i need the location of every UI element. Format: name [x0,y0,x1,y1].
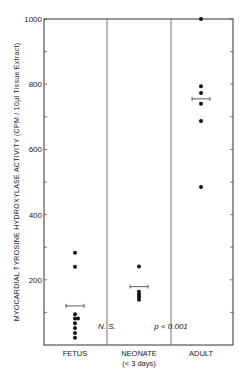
y-tick-label: 1000 [24,15,42,24]
significance-label: N. S. [98,322,116,331]
significance-annotations: N. S.p < 0.001 [98,322,188,331]
y-tick-label: 600 [29,145,43,154]
data-point [73,251,77,255]
category-label: ADULT [189,349,213,358]
data-point [199,102,203,106]
data-point [137,264,141,268]
data-point [73,326,77,330]
y-tick-label: 400 [29,211,43,220]
y-tick-label: 200 [29,276,43,285]
data-point [73,321,77,325]
category-sublabel: (< 3 days) [122,359,156,368]
data-point [73,312,77,316]
data-point [199,17,203,21]
data-point [199,185,203,189]
y-axis-label: MYOCARDIAL TYROSINE HYDROXYLASE ACTIVITY… [13,43,21,322]
data-point [199,119,203,123]
y-axis-ticks: 2004006008001000 [24,15,233,312]
data-point [73,331,77,335]
data-points [73,17,203,340]
mean-bars [66,97,210,308]
data-point [73,265,77,269]
data-point [199,84,203,88]
category-labels: FETUSNEONATE(< 3 days)ADULT [63,349,214,368]
scatter-chart: 2004006008001000 FETUSNEONATE(< 3 days)A… [0,0,245,370]
significance-label: p < 0.001 [153,322,188,331]
y-tick-label: 800 [29,80,43,89]
data-point [199,91,203,95]
category-label: FETUS [63,349,88,358]
data-point [137,298,141,302]
data-point [76,317,80,321]
data-point [73,336,77,340]
category-label: NEONATE [121,349,157,358]
